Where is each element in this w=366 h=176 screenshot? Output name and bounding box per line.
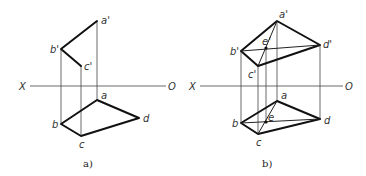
label-c-prime-a: c' [84,61,92,72]
panel-b: X O a' b' c' d' e' a b c d e b) [188,9,353,169]
caption-b: b) [262,158,272,169]
label-d-a: d [143,113,150,124]
label-a-a: a [101,90,107,101]
axis-label-o-a: O [168,81,176,92]
panel-a: X O a' b' c' a b c d a) [18,15,176,169]
label-e-prime-b: e' [262,36,271,47]
label-a-b: a [281,90,287,101]
label-b-prime-b: b' [230,46,239,57]
label-a-prime-b: a' [279,9,288,20]
top-view-polygon-a [61,100,139,136]
label-b-b: b [232,118,238,129]
label-e-b: e [268,112,274,123]
front-view-polygon-b [241,21,320,66]
label-b-a: b [52,119,58,130]
label-c-a: c [79,139,85,150]
label-a-prime-a: a' [101,15,110,26]
label-b-prime-a: b' [50,44,59,55]
label-d-b: d [324,115,331,126]
axis-label-x-b: X [188,81,197,92]
top-view-polygon-b [241,101,320,134]
caption-a: a) [83,158,93,169]
label-d-prime-b: d' [323,39,332,50]
axis-label-x-a: X [18,81,27,92]
front-view-polyline-a [61,21,97,66]
label-c-prime-b: c' [248,69,256,80]
axis-label-o-b: O [345,81,353,92]
projection-diagram: X O a' b' c' a b c d a) X O [0,0,366,176]
label-c-b: c [256,137,262,148]
